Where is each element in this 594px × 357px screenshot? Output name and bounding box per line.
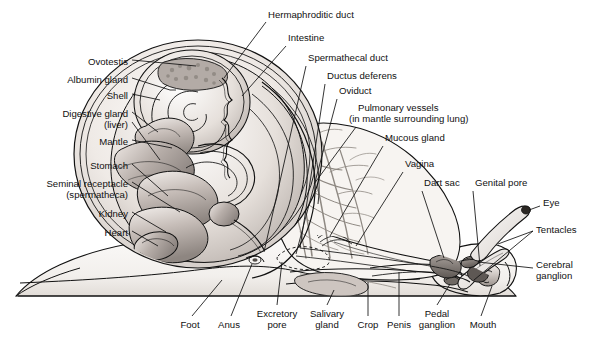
label-shell: Shell: [107, 90, 128, 101]
label-ganglion: ganglion: [536, 270, 572, 281]
label-oviduct: Oviduct: [339, 85, 372, 96]
label-stomach: Stomach: [90, 160, 128, 171]
label-pedal: Pedal: [377, 308, 497, 319]
label-seminal-receptacle: Seminal receptacle: [46, 178, 128, 189]
label-vagina: Vagina: [405, 158, 434, 169]
label-pulmonary-vessels: Pulmonary vessels: [358, 102, 439, 113]
label-salivary: Salivary: [267, 308, 387, 319]
label-mouth: Mouth: [423, 319, 543, 330]
label-in-mantle-surrounding-lung: (in mantle surrounding lung): [349, 113, 468, 124]
label-ductus-deferens: Ductus deferens: [327, 70, 397, 81]
label-mantle: Mantle: [99, 136, 128, 147]
label-eye: Eye: [543, 197, 560, 208]
label-ovotestis: Ovotestis: [88, 56, 128, 67]
label-digestive-gland: Digestive gland: [62, 108, 128, 119]
label-kidney: Kidney: [99, 208, 128, 219]
leader-eye: [529, 206, 540, 210]
label-liver: (liver): [104, 119, 128, 130]
label-hermaphroditic-duct: Hermaphroditic duct: [268, 9, 354, 20]
label-mucous-gland: Mucous gland: [385, 132, 445, 143]
label-intestine: Intestine: [288, 32, 324, 43]
label-albumin-gland: Albumin gland: [67, 74, 128, 85]
label-heart: Heart: [105, 227, 128, 238]
label-spermathecal-duct: Spermathecal duct: [308, 52, 388, 63]
label-tentacles: Tentacles: [536, 224, 577, 235]
label-genital-pore: Genital pore: [475, 177, 527, 188]
label-spermatheca: (spermatheca): [66, 189, 128, 200]
label-cerebral: Cerebral: [536, 259, 573, 270]
label-dart-sac: Dart sac: [424, 177, 460, 188]
